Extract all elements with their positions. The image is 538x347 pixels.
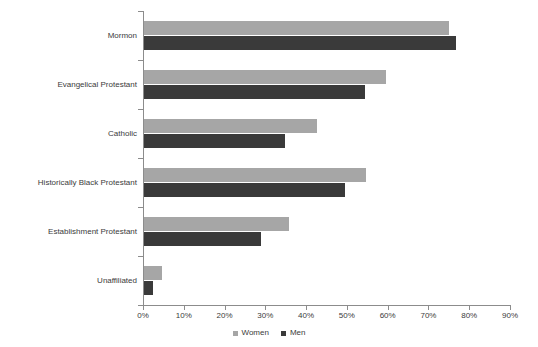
chart-legend: WomenMen	[0, 328, 538, 338]
x-axis-tick	[265, 305, 266, 310]
chart-category-row: Mormon	[0, 11, 538, 60]
chart-category-row: Catholic	[0, 109, 538, 158]
bar-group	[144, 217, 524, 247]
x-axis-tick-label: 90%	[502, 311, 518, 321]
bar-men	[144, 134, 285, 148]
chart-category-row: Establishment Protestant	[0, 207, 538, 256]
x-axis-tick	[510, 305, 511, 310]
bar-group	[144, 119, 524, 149]
x-axis-tick-label: 50%	[339, 311, 355, 321]
bar-women	[144, 70, 386, 84]
x-axis-tick-label: 60%	[380, 311, 396, 321]
category-label: Unaffiliated	[97, 276, 137, 286]
chart-category-row: Historically Black Protestant	[0, 158, 538, 207]
legend-label: Women	[242, 328, 269, 338]
x-axis-tick	[306, 305, 307, 310]
bar-men	[144, 183, 345, 197]
bar-group	[144, 168, 524, 198]
legend-swatch-icon	[233, 331, 238, 336]
x-axis-tick-label: 30%	[257, 311, 273, 321]
x-axis-tick	[388, 305, 389, 310]
x-axis-line	[143, 305, 511, 306]
legend-label: Men	[290, 328, 306, 338]
legend-item-men[interactable]: Men	[281, 328, 306, 338]
bar-women	[144, 266, 162, 280]
legend-item-women[interactable]: Women	[233, 328, 269, 338]
x-axis-tick	[184, 305, 185, 310]
x-axis-tick-label: 80%	[461, 311, 477, 321]
x-axis-tick-label: 10%	[176, 311, 192, 321]
bar-men	[144, 281, 153, 295]
category-label: Mormon	[108, 31, 137, 41]
x-axis-tick-label: 40%	[298, 311, 314, 321]
x-axis-tick	[143, 305, 144, 310]
bar-men	[144, 36, 456, 50]
bar-women	[144, 217, 289, 231]
x-axis-tick-label: 20%	[217, 311, 233, 321]
bar-group	[144, 266, 524, 296]
x-axis-tick	[347, 305, 348, 310]
chart-category-row: Evangelical Protestant	[0, 60, 538, 109]
x-axis-tick	[428, 305, 429, 310]
bar-men	[144, 232, 261, 246]
chart-category-row: Unaffiliated	[0, 256, 538, 305]
bar-women	[144, 21, 449, 35]
legend-swatch-icon	[281, 331, 286, 336]
bar-chart: MormonEvangelical ProtestantCatholicHist…	[0, 0, 538, 347]
bar-women	[144, 119, 317, 133]
x-axis-tick	[469, 305, 470, 310]
category-label: Evangelical Protestant	[57, 80, 137, 90]
category-label: Historically Black Protestant	[38, 178, 137, 188]
x-axis-tick-label: 70%	[420, 311, 436, 321]
bar-group	[144, 21, 524, 51]
bar-group	[144, 70, 524, 100]
bar-men	[144, 85, 365, 99]
bar-women	[144, 168, 366, 182]
x-axis-tick-label: 0%	[137, 311, 149, 321]
category-label: Establishment Protestant	[48, 227, 137, 237]
x-axis-tick	[225, 305, 226, 310]
category-label: Catholic	[108, 129, 137, 139]
